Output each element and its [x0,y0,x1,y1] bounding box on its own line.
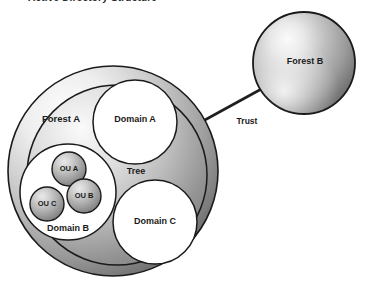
trust-label: Trust [237,116,258,126]
ou-b-group[interactable]: OU B [67,179,101,213]
domain-a-label: Domain A [114,114,156,124]
domain-c-group[interactable]: Domain C [113,180,197,264]
domain-b-label: Domain B [47,223,90,233]
ou-a-label: OU A [60,164,79,173]
ou-c-group[interactable]: OU C [30,187,64,221]
tree-label: Tree [127,166,146,176]
ou-c-label: OU C [38,199,57,208]
forest-a-label: Forest A [42,113,80,124]
domain-c-label: Domain C [134,216,177,226]
ou-b-label: OU B [75,191,94,200]
diagram-canvas: Active Directory Structure [0,0,365,284]
forest-b-group[interactable]: Forest B [253,12,355,114]
domain-b-group[interactable]: OU A OU B OU C Domain B [20,144,116,240]
active-directory-structure-diagram: Domain A Domain C OU A [0,0,365,284]
forest-b-label: Forest B [287,56,324,66]
domain-a-group[interactable]: Domain A [93,80,177,164]
forest-a-group[interactable]: Domain A Domain C OU A [8,66,218,276]
